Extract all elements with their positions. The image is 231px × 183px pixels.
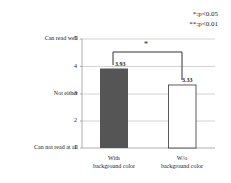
legend-line-1: *:p<0.05 (189, 9, 218, 19)
legend-line-2: **:p<0.01 (189, 19, 218, 29)
y-tick-5: 5 (72, 35, 77, 41)
y-tick-2: 2 (72, 117, 77, 123)
p-value-legend: *:p<0.05 **:p<0.01 (189, 9, 218, 29)
value-label-bar2: 3.33 (182, 77, 193, 83)
y-tick-1: 1 (72, 144, 77, 150)
y-tick-4: 4 (72, 63, 77, 69)
bar-with-background (100, 69, 128, 149)
significance-star: * (144, 40, 148, 49)
x-label-without-background: W/o background color (147, 154, 217, 170)
y-tick-3: 3 (72, 90, 77, 96)
x-label-with-background: With background color (79, 154, 149, 170)
bar-without-background (169, 85, 197, 148)
value-label-bar1: 3.93 (115, 61, 126, 67)
